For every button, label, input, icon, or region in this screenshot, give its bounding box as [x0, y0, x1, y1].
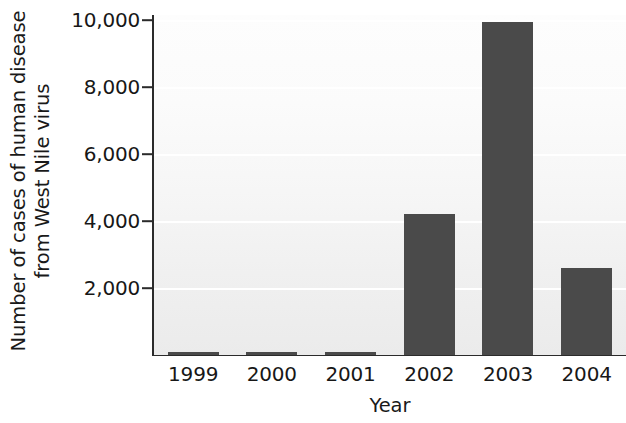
gridline — [154, 20, 626, 22]
bar-2003 — [482, 22, 533, 355]
bar-2002 — [404, 214, 455, 355]
x-axis-tick-label: 2004 — [562, 362, 612, 386]
y-axis-tick-mark — [142, 220, 153, 222]
x-axis-title: Year — [154, 394, 626, 417]
bar-2001 — [325, 352, 376, 355]
x-axis-tick-labels: 199920002001200220032004 — [154, 362, 626, 392]
x-axis-tick-label: 2001 — [325, 362, 375, 386]
x-axis-tick-label: 2002 — [404, 362, 454, 386]
x-axis-tick-label: 2003 — [483, 362, 533, 386]
gridline — [154, 87, 626, 89]
y-axis-title-line-2: from West Nile virus — [31, 84, 55, 279]
y-axis-tick-label: 2,000 — [62, 276, 140, 300]
gridline — [154, 154, 626, 156]
gridline — [154, 288, 626, 290]
y-axis-tick-mark — [142, 153, 153, 155]
bar-1999 — [168, 352, 219, 355]
y-axis-tick-label: 8,000 — [62, 75, 140, 99]
y-axis-tick-label: 10,000 — [62, 8, 140, 32]
y-axis-tick-mark — [142, 86, 153, 88]
y-axis-tick-mark — [142, 19, 153, 21]
bar-2004 — [561, 268, 612, 355]
plot-area — [154, 15, 626, 355]
gridline — [154, 221, 626, 223]
bar-2000 — [246, 352, 297, 355]
x-axis-tick-label: 2000 — [247, 362, 297, 386]
y-axis-tick-label: 4,000 — [62, 209, 140, 233]
y-axis-tick-label: 6,000 — [62, 142, 140, 166]
y-axis-title: Number of cases of human disease from We… — [0, 0, 62, 370]
y-axis-tick-labels: 2,0004,0006,0008,00010,000 — [62, 0, 140, 380]
bar-chart-figure: Number of cases of human disease from We… — [0, 0, 626, 423]
y-axis-title-line-1: Number of cases of human disease — [7, 11, 31, 352]
y-axis-tick-mark — [142, 287, 153, 289]
x-axis-tick-label: 1999 — [168, 362, 218, 386]
